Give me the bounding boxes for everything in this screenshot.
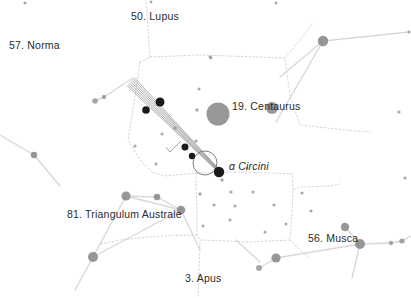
comet-position-dot (189, 153, 195, 159)
star (403, 176, 406, 179)
star (102, 95, 106, 99)
constellation-boundary (140, 55, 370, 132)
constellation-label-musca: 56. Musca (308, 233, 358, 244)
star (229, 190, 232, 193)
star (210, 57, 213, 60)
constellation-line (126, 196, 157, 197)
constellation-label-norma: 57. Norma (9, 40, 60, 51)
star (121, 191, 130, 200)
comet-track-tick (166, 147, 170, 152)
star (389, 241, 393, 245)
star (300, 191, 303, 194)
star (23, 1, 26, 4)
star (256, 265, 262, 271)
star (133, 144, 136, 147)
star (212, 203, 215, 206)
star (271, 253, 280, 262)
star-chart: 50. Lupus57. Norma19. Centaurusα Circini… (0, 0, 411, 298)
star (285, 223, 288, 226)
constellation-boundary-layer (100, 0, 370, 296)
constellation-boundary (196, 172, 293, 190)
star (154, 194, 161, 201)
star (194, 139, 197, 142)
constellation-line (75, 257, 93, 290)
constellation-line (236, 240, 260, 262)
constellation-label-lupus: 50. Lupus (131, 11, 179, 22)
constellation-line (34, 155, 60, 186)
star (207, 103, 230, 126)
star (198, 192, 201, 195)
star (399, 238, 404, 243)
star (318, 36, 328, 46)
constellation-line (323, 32, 409, 41)
star (407, 30, 410, 33)
star-layer (23, 1, 410, 271)
star (341, 223, 349, 231)
star (229, 219, 232, 222)
comet-track-ray (135, 78, 223, 173)
constellation-label-centaurus: 19. Centaurus (232, 101, 301, 112)
star (150, 1, 153, 4)
star (202, 225, 205, 228)
star (198, 88, 201, 91)
comet-position-dot (182, 144, 189, 151)
constellation-line (276, 244, 360, 258)
star (195, 108, 198, 111)
constellation-boundary (146, 0, 150, 57)
constellation-line-layer (0, 32, 411, 290)
star (309, 209, 312, 212)
star (88, 252, 98, 262)
constellation-boundary (100, 235, 197, 244)
star (275, 2, 278, 5)
star (220, 178, 223, 181)
comet-position-dot (142, 106, 150, 114)
comet-track-tick (170, 141, 181, 152)
star (92, 98, 98, 104)
star (397, 110, 400, 113)
constellation-label-circini: α Circini (229, 161, 269, 172)
comet-position-dot (156, 98, 165, 107)
constellation-line (280, 41, 323, 77)
star (154, 162, 157, 165)
comet-track-ray (134, 79, 223, 173)
star (173, 126, 176, 129)
comet-track-ray (132, 81, 222, 174)
comet-position-dot (214, 167, 224, 177)
star (31, 152, 37, 158)
star (251, 190, 254, 193)
sky-canvas (0, 0, 411, 298)
star (272, 203, 275, 206)
constellation-label-tra: 81. Triangulum Australe (67, 209, 182, 220)
constellation-line (0, 135, 34, 155)
constellation-label-apus: 3. Apus (185, 273, 221, 284)
constellation-line (352, 244, 360, 278)
star (233, 204, 236, 207)
star (160, 132, 163, 135)
star (264, 231, 267, 234)
